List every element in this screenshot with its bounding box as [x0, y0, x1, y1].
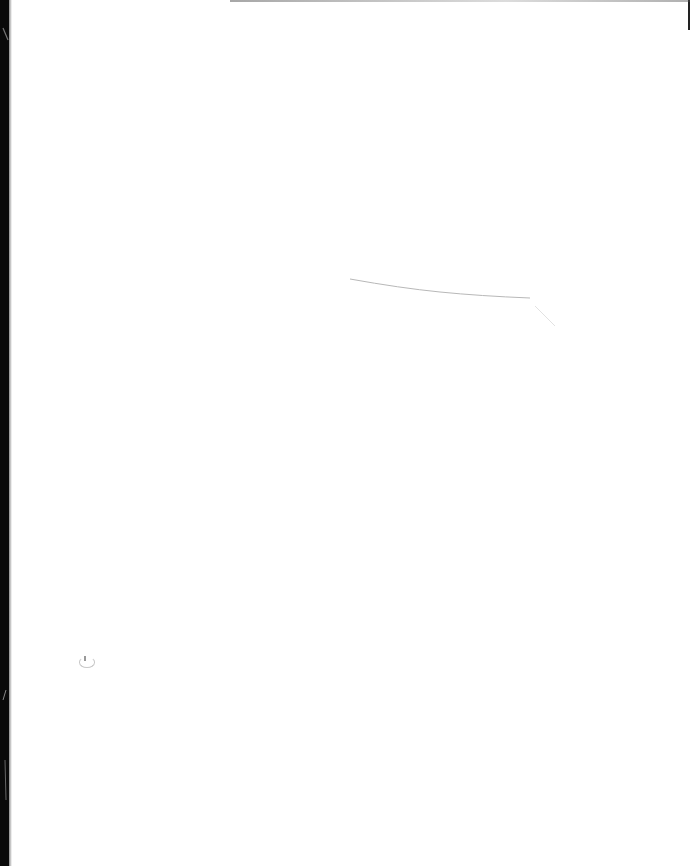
- faint-streak-artifact: [0, 0, 690, 866]
- small-smudge-artifact: [79, 657, 95, 668]
